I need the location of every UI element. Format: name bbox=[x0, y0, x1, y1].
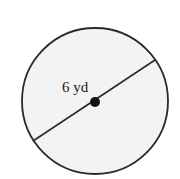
circle-diagram: 6 yd bbox=[0, 0, 180, 179]
center-point bbox=[90, 97, 100, 107]
diameter-label: 6 yd bbox=[62, 79, 89, 95]
